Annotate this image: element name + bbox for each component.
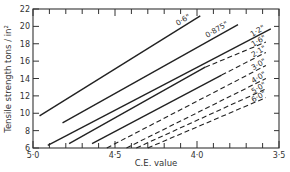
- chart-canvas: 68101214161820225·04·54·03·5 0·6"0·875"1…: [0, 0, 290, 172]
- series-lines: [40, 16, 271, 148]
- x-tick-label: 4·0: [191, 151, 204, 160]
- series-solid-line: [48, 29, 271, 145]
- x-tick-label: 5·0: [27, 151, 40, 160]
- y-tick-label: 10: [20, 109, 30, 118]
- y-tick-label: 18: [20, 40, 30, 49]
- series-solid-line: [40, 16, 201, 116]
- y-tick-label: 14: [20, 75, 30, 84]
- y-tick-label: 16: [20, 57, 30, 66]
- y-tick-label: 22: [20, 5, 30, 14]
- x-tick-label: 4·5: [109, 151, 122, 160]
- series-dashed-line: [136, 89, 266, 148]
- series-solid-line: [63, 25, 238, 123]
- axes: 68101214161820225·04·54·03·5: [20, 5, 286, 160]
- tensile-strength-chart: 68101214161820225·04·54·03·5 0·6"0·875"1…: [0, 0, 290, 172]
- series-labels: 0·6"0·875"1·2"1·6"2·1"3·0"4·0"5·0"6·0": [174, 12, 267, 104]
- y-axis-label: Tensile strength tons / in²: [3, 25, 13, 134]
- series-label: 0·6": [174, 12, 192, 28]
- y-tick-label: 20: [20, 22, 30, 31]
- y-tick-label: 12: [20, 92, 30, 101]
- y-tick-label: 8: [25, 127, 30, 136]
- x-tick-label: 3·5: [273, 151, 286, 160]
- x-axis-label: C.E. value: [135, 158, 178, 168]
- plot-frame: [33, 9, 279, 148]
